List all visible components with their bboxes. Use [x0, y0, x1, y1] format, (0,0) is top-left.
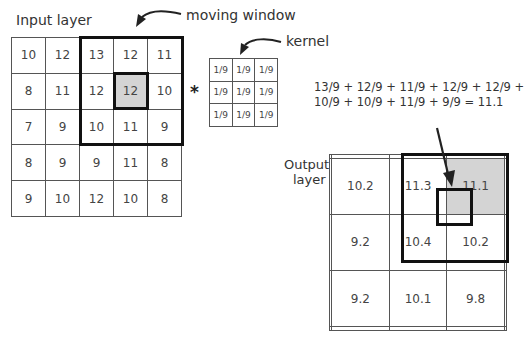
kernel-arrow-icon: [240, 39, 281, 55]
result-arrow-icon: [437, 128, 455, 187]
moving-window-arrow-icon: [136, 11, 181, 27]
annotation-arrows: [0, 0, 525, 349]
